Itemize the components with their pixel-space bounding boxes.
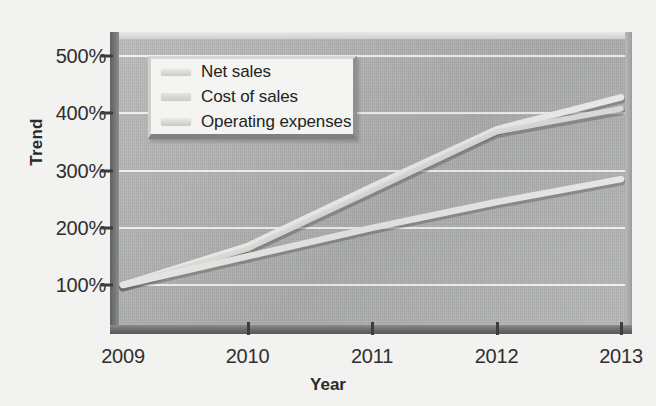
legend-swatch-icon — [161, 118, 191, 125]
y-axis-tick-label: 200% — [56, 216, 106, 239]
x-axis-tick — [371, 322, 374, 335]
line-chart: Trend 100%200%300%400%500% 2009201020112… — [0, 0, 656, 406]
x-axis-tick-label: 2011 — [351, 345, 393, 368]
y-axis-tick-labels: 100%200%300%400%500% — [34, 0, 106, 406]
y-axis-tick — [101, 283, 113, 286]
y-axis-tick — [101, 55, 113, 58]
x-axis-tick-label: 2012 — [475, 345, 519, 368]
frame-left-bevel — [110, 32, 119, 334]
x-axis-tick — [620, 322, 623, 335]
frame-top-bevel — [119, 32, 632, 39]
x-axis-tick-label: 2013 — [599, 345, 643, 368]
x-axis-tick — [247, 322, 250, 335]
legend-item-label: Cost of sales — [201, 87, 298, 107]
y-axis-tick-label: 100% — [56, 273, 106, 296]
legend-swatch-icon — [161, 68, 191, 75]
legend-item: Operating expenses — [151, 109, 353, 134]
legend-item-label: Net sales — [201, 62, 271, 82]
y-axis-tick — [101, 226, 113, 229]
x-axis-tick-label: 2009 — [101, 345, 145, 368]
legend: Net sales Cost of sales Operating expens… — [148, 56, 357, 139]
legend-item: Cost of sales — [151, 84, 353, 109]
y-axis-tick — [101, 112, 113, 115]
x-axis-title: Year — [0, 375, 656, 395]
legend-item-label: Operating expenses — [201, 112, 351, 132]
y-axis-tick-label: 500% — [56, 45, 106, 68]
x-axis-tick — [496, 322, 499, 335]
y-axis-tick-label: 300% — [56, 159, 106, 182]
legend-swatch-icon — [161, 93, 191, 100]
frame-right-bevel — [625, 32, 632, 325]
x-axis-tick-label: 2010 — [226, 345, 270, 368]
y-axis-tick-label: 400% — [56, 102, 106, 125]
legend-item: Net sales — [151, 59, 353, 84]
y-axis-tick — [101, 169, 113, 172]
